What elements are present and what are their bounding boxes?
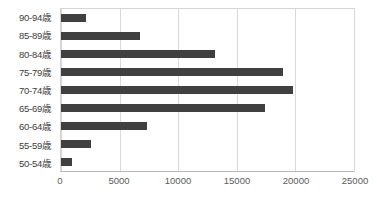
bar bbox=[61, 158, 72, 166]
gridline bbox=[354, 9, 355, 171]
category-tick: 70-74歳 bbox=[0, 81, 56, 99]
category-label: 60-64歳 bbox=[19, 119, 52, 133]
category-label: 85-89歳 bbox=[19, 28, 52, 42]
value-tick-label: 10000 bbox=[165, 175, 191, 186]
category-label: 50-54歳 bbox=[19, 156, 52, 170]
value-axis: 0500010000150002000025000 bbox=[60, 175, 355, 191]
category-axis: 90-94歳85-89歳80-84歳75-79歳70-74歳65-69歳60-6… bbox=[0, 8, 56, 172]
bar-row bbox=[61, 45, 354, 63]
category-label: 55-59歳 bbox=[19, 138, 52, 152]
bar-row bbox=[61, 135, 354, 153]
bar-row bbox=[61, 63, 354, 81]
value-tick-label: 5000 bbox=[108, 175, 129, 186]
bar-row bbox=[61, 9, 354, 27]
category-label: 65-69歳 bbox=[19, 101, 52, 115]
value-tick-label: 20000 bbox=[283, 175, 309, 186]
category-label: 80-84歳 bbox=[19, 47, 52, 61]
bar bbox=[61, 14, 86, 22]
bar-row bbox=[61, 153, 354, 171]
value-tick-label: 25000 bbox=[342, 175, 368, 186]
bar-row bbox=[61, 117, 354, 135]
bar-row bbox=[61, 27, 354, 45]
category-tick: 65-69歳 bbox=[0, 99, 56, 117]
bar bbox=[61, 86, 293, 94]
bar bbox=[61, 32, 140, 40]
value-tick-label: 0 bbox=[57, 175, 62, 186]
category-tick: 85-89歳 bbox=[0, 26, 56, 44]
bar-row bbox=[61, 99, 354, 117]
bar bbox=[61, 122, 147, 130]
category-tick: 60-64歳 bbox=[0, 117, 56, 135]
value-tick-label: 15000 bbox=[224, 175, 250, 186]
category-label: 75-79歳 bbox=[19, 65, 52, 79]
bar-row bbox=[61, 81, 354, 99]
category-tick: 90-94歳 bbox=[0, 8, 56, 26]
category-tick: 55-59歳 bbox=[0, 136, 56, 154]
bar bbox=[61, 50, 215, 58]
bar bbox=[61, 140, 91, 148]
category-tick: 50-54歳 bbox=[0, 154, 56, 172]
category-tick: 75-79歳 bbox=[0, 63, 56, 81]
bar bbox=[61, 68, 283, 76]
category-label: 70-74歳 bbox=[19, 83, 52, 97]
category-tick: 80-84歳 bbox=[0, 44, 56, 62]
plot-area bbox=[60, 8, 355, 172]
bars-layer bbox=[61, 9, 354, 171]
category-label: 90-94歳 bbox=[19, 10, 52, 24]
bar bbox=[61, 104, 265, 112]
bar-chart: 90-94歳85-89歳80-84歳75-79歳70-74歳65-69歳60-6… bbox=[0, 0, 377, 205]
